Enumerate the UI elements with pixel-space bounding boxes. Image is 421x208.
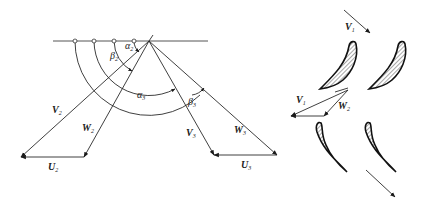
stator-blade — [365, 122, 396, 172]
label-V1-inlet: V1 — [345, 21, 355, 33]
label-W2-mid: W2 — [338, 100, 350, 112]
rotor-blade — [320, 42, 357, 89]
label-V2: V2 — [52, 104, 62, 116]
vector-V3 — [149, 41, 214, 155]
label-W2: W2 — [82, 122, 94, 134]
arc-origin-marker — [73, 39, 77, 43]
blade-cascade: V1 V1 W2 — [291, 10, 406, 197]
arc-origin-marker — [132, 39, 136, 43]
velocity-triangles: V2 W2 U2 V3 W3 U3 α2 β2 α3 β3 — [21, 35, 277, 173]
beta3-arc — [192, 88, 204, 95]
label-alpha3: α3 — [137, 89, 145, 101]
blade-tip-line — [335, 88, 348, 92]
label-V3: V3 — [186, 127, 196, 139]
alpha3-arc — [94, 41, 175, 96]
label-V1-mid: V1 — [296, 94, 306, 106]
label-U2: U2 — [48, 161, 58, 173]
vector-V2 — [21, 41, 149, 157]
velocity-diagram: V2 W2 U2 V3 W3 U3 α2 β2 α3 β3 V1 V1 W2 — [0, 0, 421, 208]
rotor-blade — [369, 42, 406, 89]
arc-origin-marker — [92, 39, 96, 43]
stator-blade — [316, 122, 347, 172]
alpha3-outer-arc — [75, 41, 200, 115]
arc-origin-marker — [112, 39, 116, 43]
apex-tick — [149, 35, 153, 41]
label-beta3: β3 — [187, 96, 196, 108]
vector-W3 — [149, 41, 277, 155]
label-U3: U3 — [241, 159, 251, 171]
exit-flow-arrow — [366, 170, 395, 197]
label-beta2: β2 — [109, 50, 118, 62]
